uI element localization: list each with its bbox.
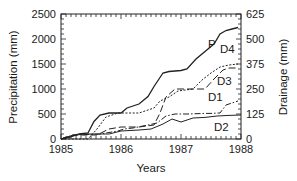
y2-tick-label: 625 — [246, 8, 264, 20]
y2-tick-label: 375 — [246, 58, 264, 70]
series-line-d3 — [61, 68, 238, 139]
x-tick-label: 1988 — [229, 143, 253, 155]
right-axis-tick-labels: 0125250375500625 — [246, 8, 264, 145]
precipitation-drainage-chart: 05001000150020002500 0125250375500625 19… — [0, 0, 297, 181]
series-label-d2: D2 — [214, 121, 229, 133]
x-tick-label: 1985 — [49, 143, 73, 155]
x-axis-tick-labels: 1985198619871988 — [49, 143, 253, 155]
y-tick-label: 2500 — [32, 8, 56, 20]
y-tick-label: 1500 — [32, 58, 56, 70]
y2-tick-label: 250 — [246, 83, 264, 95]
x-tick-label: 1986 — [109, 143, 133, 155]
y-tick-label: 500 — [38, 108, 56, 120]
y-tick-label: 2000 — [32, 33, 56, 45]
y2-axis-title: Drainage (mm) — [277, 38, 289, 115]
series-label-d1: D1 — [208, 91, 223, 103]
y-tick-label: 1000 — [32, 83, 56, 95]
series-label-p: P — [208, 38, 216, 50]
series-label-d3: D3 — [217, 75, 232, 87]
y-axis-title: Precipitation (mm) — [7, 30, 19, 123]
left-axis-tick-labels: 05001000150020002500 — [32, 8, 56, 145]
x-tick-label: 1987 — [169, 143, 193, 155]
y2-tick-label: 500 — [246, 33, 264, 45]
series-labels: PD1D2D3D4 — [208, 38, 235, 134]
x-axis-title: Years — [137, 162, 166, 174]
y2-tick-label: 125 — [246, 108, 264, 120]
series-label-d4: D4 — [220, 43, 235, 55]
